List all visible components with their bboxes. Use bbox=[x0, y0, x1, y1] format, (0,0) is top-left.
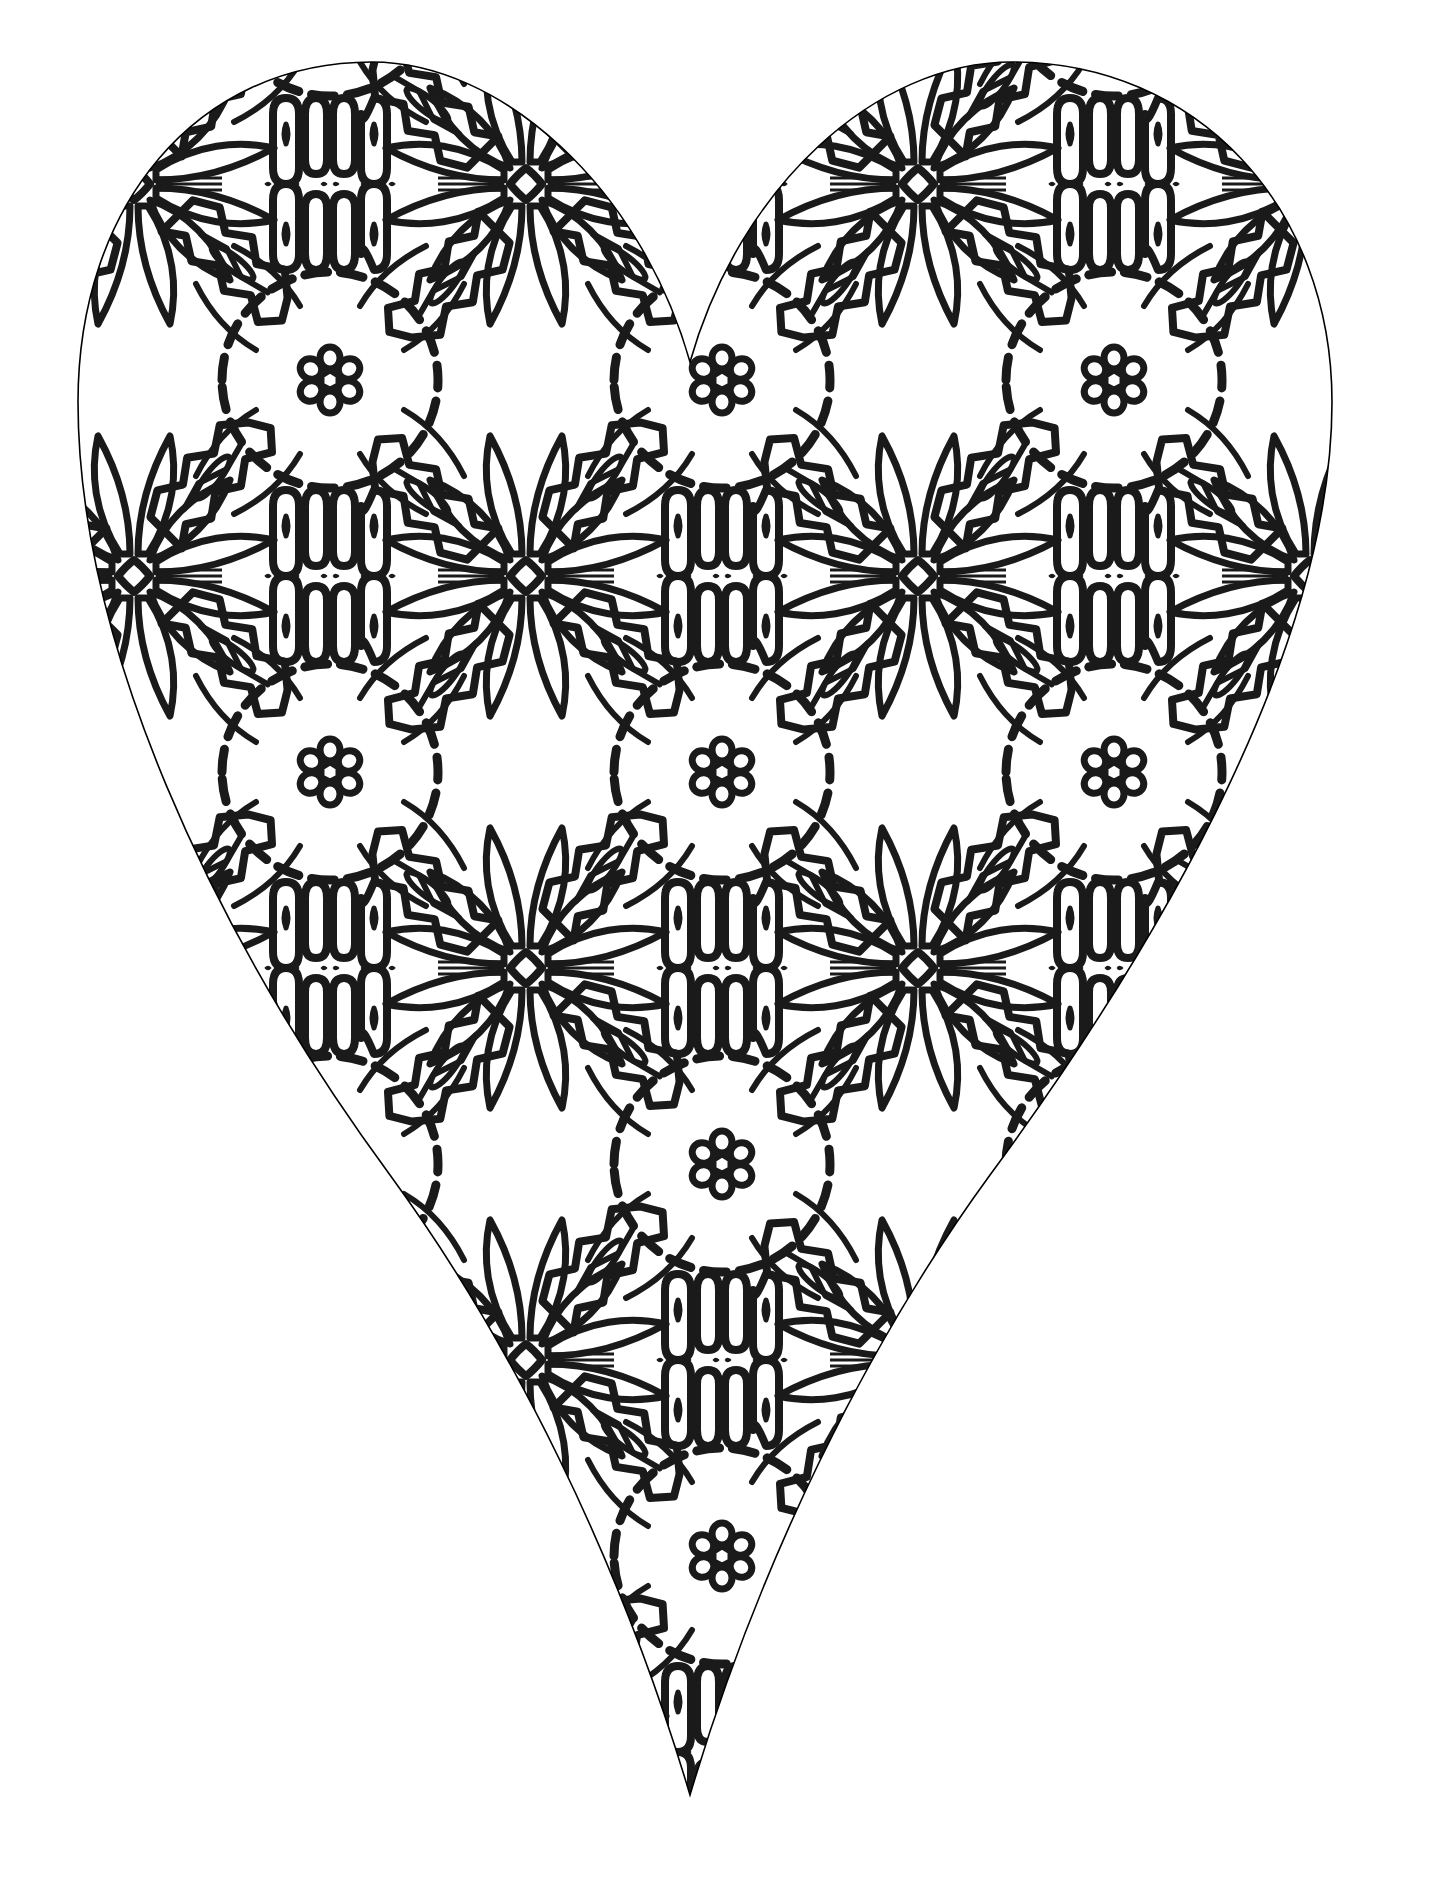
heart-mandala-artwork bbox=[0, 0, 1429, 1896]
coloring-page-canvas: Heart Mandala Coloring Page Large hand-d… bbox=[0, 0, 1429, 1896]
